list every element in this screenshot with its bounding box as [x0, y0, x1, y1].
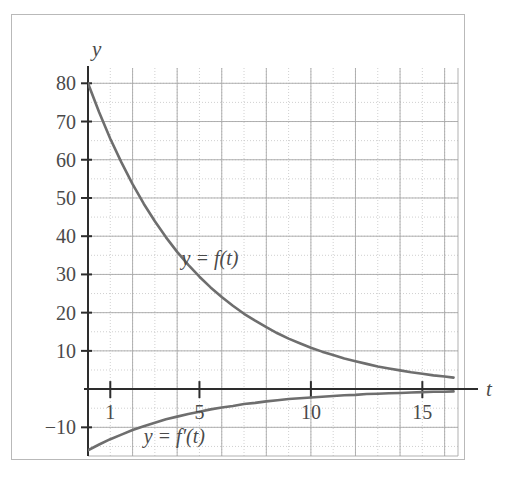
grid-minor — [88, 68, 458, 456]
x-tick-label: 5 — [194, 401, 204, 423]
y-tick-label: 50 — [56, 187, 76, 209]
y-tick-label: 70 — [56, 111, 76, 133]
y-tick-label: 10 — [56, 340, 76, 362]
curve-label-f: y = f(t) — [180, 247, 239, 270]
y-tick-label: 80 — [56, 72, 76, 94]
plot-canvas: −101020304050607080151015yty = f(t)y = f… — [0, 0, 518, 494]
y-axis-label: y — [90, 37, 102, 61]
curve-label-f-prime: y = f′(t) — [142, 425, 206, 448]
y-tick-label: 40 — [56, 225, 76, 247]
axes — [81, 66, 478, 456]
curve-f — [88, 83, 454, 377]
y-tick-label: 60 — [56, 149, 76, 171]
curves — [88, 83, 454, 450]
x-tick-label: 15 — [412, 401, 432, 423]
grid-major — [88, 68, 458, 456]
y-tick-label: 30 — [56, 263, 76, 285]
figure-root: −101020304050607080151015yty = f(t)y = f… — [0, 0, 518, 494]
labels: −101020304050607080151015yty = f(t)y = f… — [45, 37, 493, 448]
x-axis-label: t — [486, 377, 493, 401]
x-tick-label: 10 — [301, 401, 321, 423]
y-tick-label: 20 — [56, 302, 76, 324]
x-tick-label: 1 — [105, 401, 115, 423]
y-tick-label: −10 — [45, 416, 76, 438]
